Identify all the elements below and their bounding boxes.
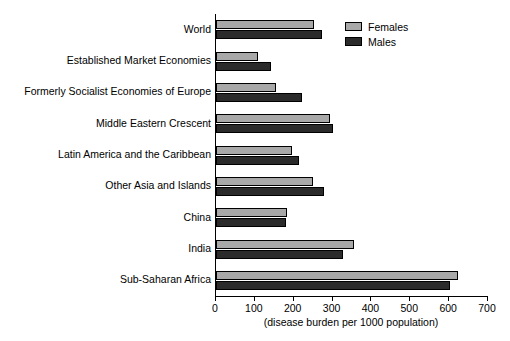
- bar-males: [216, 250, 343, 259]
- legend-label-males: Males: [368, 36, 396, 48]
- x-axis-tick: [332, 296, 333, 301]
- legend-swatch-males: [345, 37, 362, 46]
- bar-females: [216, 146, 292, 155]
- x-axis-tick-label: 300: [323, 302, 341, 314]
- x-axis-tick-label: 700: [478, 302, 496, 314]
- plot-area: [215, 14, 488, 297]
- category-axis-labels: WorldEstablished Market EconomiesFormerl…: [0, 14, 211, 296]
- bar-females: [216, 114, 330, 123]
- x-axis-tick: [254, 296, 255, 301]
- legend-item-females: Females: [345, 20, 408, 33]
- x-axis-tick: [370, 296, 371, 301]
- category-label: Middle Eastern Crescent: [96, 118, 211, 128]
- bar-females: [216, 240, 354, 249]
- category-label: India: [188, 243, 211, 253]
- legend-label-females: Females: [368, 21, 408, 33]
- bar-males: [216, 93, 302, 102]
- bar-females: [216, 208, 287, 217]
- bar-males: [216, 30, 322, 39]
- x-axis-tick-label: 100: [245, 302, 263, 314]
- x-axis-tick: [293, 296, 294, 301]
- bar-females: [216, 83, 276, 92]
- bar-males: [216, 124, 333, 133]
- bar-males: [216, 62, 271, 71]
- x-axis: 0100200300400500600700: [215, 296, 487, 318]
- legend-item-males: Males: [345, 35, 408, 48]
- category-label: Established Market Economies: [67, 55, 211, 65]
- x-axis-tick: [215, 296, 216, 301]
- bar-females: [216, 20, 314, 29]
- bar-males: [216, 156, 299, 165]
- bar-females: [216, 52, 258, 61]
- x-axis-tick: [487, 296, 488, 301]
- bar-females: [216, 177, 313, 186]
- category-label: Sub-Saharan Africa: [120, 274, 211, 284]
- x-axis-tick-label: 500: [401, 302, 419, 314]
- x-axis-tick: [448, 296, 449, 301]
- x-axis-tick-label: 600: [439, 302, 457, 314]
- x-axis-tick-label: 0: [212, 302, 218, 314]
- category-label: Latin America and the Caribbean: [58, 149, 211, 159]
- category-label: Formerly Socialist Economies of Europe: [24, 86, 211, 96]
- chart-container: WorldEstablished Market EconomiesFormerl…: [0, 0, 510, 341]
- category-label: Other Asia and Islands: [105, 180, 211, 190]
- bar-males: [216, 218, 286, 227]
- x-axis-tick-label: 400: [362, 302, 380, 314]
- x-axis-tick: [409, 296, 410, 301]
- category-label: China: [184, 212, 211, 222]
- legend: Females Males: [345, 20, 408, 50]
- category-label: World: [184, 24, 211, 34]
- x-axis-tick-label: 200: [284, 302, 302, 314]
- legend-swatch-females: [345, 22, 362, 31]
- bar-males: [216, 187, 324, 196]
- bar-males: [216, 281, 450, 290]
- bar-females: [216, 271, 458, 280]
- x-axis-title: (disease burden per 1000 population): [215, 316, 487, 328]
